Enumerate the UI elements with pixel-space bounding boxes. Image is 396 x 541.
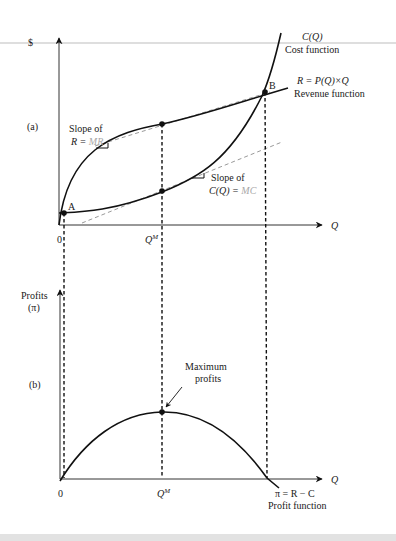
- panel-b: Profits (π) (b) Q 0 QM Maximum profits π…: [21, 290, 339, 511]
- revenue-curve-name: R = P(Q)×Q: [296, 75, 350, 87]
- panel-a-qm-label: QM: [145, 233, 159, 245]
- max-profits-label-2: profits: [195, 373, 221, 384]
- panel-b-tag: (b): [29, 379, 41, 391]
- point-b-label: B: [269, 80, 276, 91]
- panel-b-x-axis-label: Q: [331, 474, 339, 485]
- panel-b-y-axis-label-2: (π): [28, 302, 40, 314]
- panel-a: $ Q (a) 0 QM A B C(Q) Cost function R = …: [27, 31, 365, 245]
- mc-annotation-line1: Slope of: [211, 172, 245, 183]
- drop-line-b: [265, 92, 267, 478]
- cost-curve-description: Cost function: [285, 44, 339, 55]
- revenue-curve-description: Revenue function: [294, 88, 365, 99]
- point-a-label: A: [68, 201, 76, 212]
- panel-a-x-axis-label: Q: [331, 220, 339, 231]
- mc-annotation-line2: C(Q) = MC: [209, 185, 257, 197]
- bottom-bar: [0, 534, 396, 541]
- profit-curve: [60, 412, 279, 488]
- panel-a-tag: (a): [27, 121, 38, 133]
- mr-annotation-line1: Slope of: [69, 123, 103, 134]
- max-profit-dot: [159, 409, 165, 415]
- cost-curve-name: C(Q): [302, 31, 323, 43]
- panel-b-origin-label: 0: [58, 488, 63, 499]
- panel-a-origin-label: 0: [57, 234, 62, 245]
- mr-annotation-line2: R = MR: [70, 136, 103, 147]
- profit-curve-name: π = R − C: [275, 488, 315, 499]
- revenue-curve: [59, 88, 288, 225]
- profit-curve-description: Profit function: [268, 500, 327, 511]
- profit-maximization-diagram: $ Q (a) 0 QM A B C(Q) Cost function R = …: [0, 0, 396, 541]
- panel-a-y-axis-label: $: [28, 37, 33, 48]
- max-profits-arrow: [166, 387, 182, 407]
- panel-b-qm-label: QM: [157, 487, 171, 499]
- max-profits-label-1: Maximum: [185, 361, 227, 372]
- panel-b-y-axis-label-1: Profits: [21, 290, 48, 301]
